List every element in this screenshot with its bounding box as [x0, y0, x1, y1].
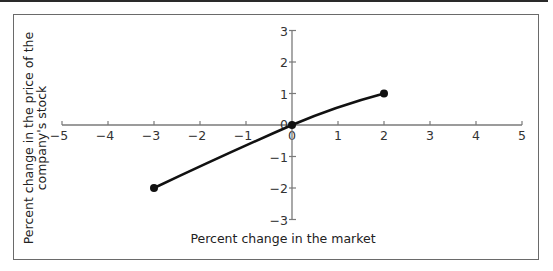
y-axis-title-line2: company's stock [34, 85, 49, 190]
x-tick-label: −3 [142, 128, 160, 143]
x-tick-label: −1 [234, 128, 252, 143]
x-tick-label: −5 [50, 128, 68, 143]
x-tick-label: 5 [518, 128, 526, 143]
y-tick-label: −3 [270, 213, 288, 228]
x-axis-title: Percent change in the market [190, 231, 375, 246]
data-point-marker [288, 121, 296, 129]
y-tick-label: 3 [280, 24, 288, 39]
y-tick-label: 1 [280, 87, 288, 102]
data-point-marker [150, 184, 158, 192]
data-point-marker [380, 90, 388, 98]
y-tick-label: −1 [270, 150, 288, 165]
x-tick-label: −4 [96, 128, 114, 143]
y-tick-label: 2 [280, 55, 288, 70]
x-tick-label: 4 [472, 128, 480, 143]
data-series [150, 90, 388, 193]
x-tick-label: 1 [334, 128, 342, 143]
y-tick-label: −2 [270, 181, 288, 196]
x-tick-label: −2 [188, 128, 206, 143]
x-tick-label: 2 [380, 128, 388, 143]
line-chart: −5−4−3−2−1012345 −3−2−10123 Percent chan… [0, 0, 553, 271]
x-tick-label: 3 [426, 128, 434, 143]
